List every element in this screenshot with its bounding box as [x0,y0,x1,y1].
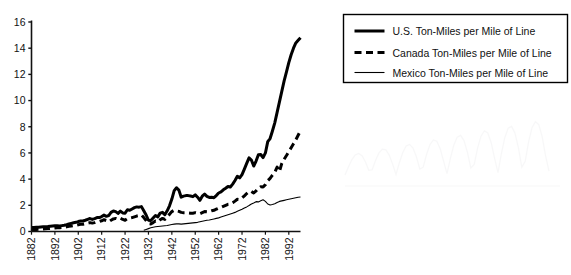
legend-label: U.S. Ton-Miles per Mile of Line [393,25,536,37]
x-tick-label: 1912 [95,237,107,261]
chart-figure: 0246810121416 18821892190219121922193219… [0,0,571,275]
legend-label: Mexico Ton-Miles per Mile of Line [393,67,549,79]
x-tick-label: 1982 [259,237,271,261]
x-tick-label: 1942 [166,237,178,261]
legend-label: Canada Ton-Miles per Mile of Line [393,47,552,59]
x-tick-label: 1922 [119,237,131,261]
x-tick-label: 1962 [212,237,224,261]
y-tick-label: 2 [20,199,26,211]
x-tick-label: 1882 [25,237,37,261]
x-tick-label: 1992 [283,237,295,261]
y-tick-label: 6 [20,147,26,159]
y-tick-label: 4 [20,173,26,185]
y-tick-label: 10 [14,94,26,106]
y-tick-label: 0 [20,225,26,237]
y-tick-label: 16 [14,16,26,28]
x-tick-label: 1932 [142,237,154,261]
x-tick-label: 1902 [72,237,84,261]
y-tick-label: 14 [14,42,26,54]
y-tick-label: 8 [20,121,26,133]
y-tick-label: 12 [14,68,26,80]
x-tick-label: 1952 [189,237,201,261]
x-tick-label: 1972 [236,237,248,261]
x-tick-label: 1892 [49,237,61,261]
chart-svg: 0246810121416 18821892190219121922193219… [0,0,571,275]
chart-legend: U.S. Ton-Miles per Mile of LineCanada To… [344,15,568,83]
